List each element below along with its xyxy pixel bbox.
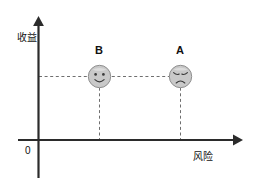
point-label-a: A xyxy=(176,44,184,56)
eye-left-b xyxy=(94,73,97,76)
chart-canvas: B A 收益 风险 0 xyxy=(0,0,254,189)
x-axis-arrow-icon xyxy=(233,135,243,146)
x-axis-label: 风险 xyxy=(193,148,213,163)
eye-right-b xyxy=(102,73,105,76)
origin-label: 0 xyxy=(25,145,31,156)
y-axis-label: 收益 xyxy=(17,31,30,45)
data-point-b[interactable] xyxy=(88,65,110,87)
data-point-a[interactable] xyxy=(169,65,191,87)
point-label-b: B xyxy=(95,44,103,56)
risk-return-plot xyxy=(0,0,254,189)
y-axis-arrow-icon xyxy=(33,16,44,26)
